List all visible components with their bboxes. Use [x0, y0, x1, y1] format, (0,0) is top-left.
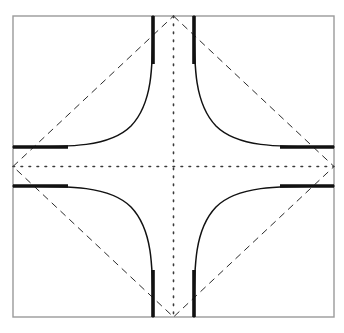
figure-container [0, 0, 344, 333]
figure-canvas [0, 0, 344, 333]
